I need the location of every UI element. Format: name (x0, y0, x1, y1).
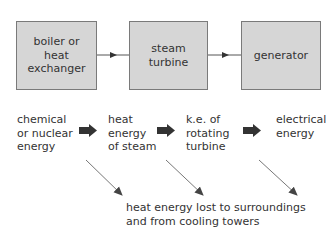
stage-ke-turbine: k.e. of rotating turbine (186, 113, 229, 154)
stage-chemical-energy: chemical or nuclear energy (17, 113, 73, 154)
arrowhead-icon (222, 52, 229, 58)
arrowhead-icon (110, 52, 117, 58)
loss-arrow-3 (259, 160, 297, 195)
stage-electrical-energy: electrical energy (276, 113, 326, 140)
block-arrow-icon (157, 124, 175, 137)
box-generator: generator (241, 21, 321, 90)
heat-loss-label: heat energy lost to surroundings and fro… (126, 201, 306, 228)
box-label: boiler or heat exchanger (28, 35, 86, 76)
loss-arrow-1 (86, 160, 122, 195)
box-label: steam turbine (149, 42, 189, 69)
block-arrow-icon (243, 124, 261, 137)
box-steam-turbine: steam turbine (129, 21, 208, 90)
box-label: generator (254, 49, 308, 63)
block-arrow-icon (79, 124, 97, 137)
stage-heat-energy-steam: heat energy of steam (108, 113, 156, 154)
loss-arrow-2 (166, 160, 203, 195)
box-boiler: boiler or heat exchanger (16, 21, 97, 90)
